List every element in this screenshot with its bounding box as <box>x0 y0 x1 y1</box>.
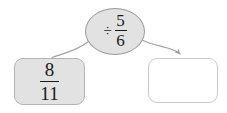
source-connector-path <box>52 42 88 58</box>
source-fraction-box[interactable]: 8 11 <box>14 58 85 105</box>
division-sign-icon: ÷ <box>103 24 111 39</box>
source-denominator: 11 <box>40 84 58 103</box>
result-connector-path <box>142 40 180 54</box>
source-numerator: 8 <box>45 60 55 79</box>
operand-denominator: 6 <box>115 32 126 49</box>
diagram-canvas: 8 11 ÷ 5 6 <box>0 0 227 113</box>
operand-numerator: 5 <box>115 12 126 29</box>
source-fraction-bar <box>40 81 58 82</box>
operator-content: ÷ 5 6 <box>103 12 126 49</box>
division-operator-node[interactable]: ÷ 5 6 <box>85 8 145 55</box>
answer-box[interactable] <box>148 58 218 103</box>
fraction-5-6: 5 6 <box>115 12 127 49</box>
fraction-8-11: 8 11 <box>40 60 58 103</box>
